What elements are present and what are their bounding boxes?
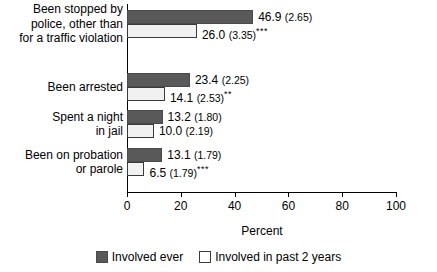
category-label-line: Been stopped by [0,2,123,17]
category-label: Been arrested [0,80,127,95]
bar-value-label: 13.2 (1.80) [168,110,222,125]
white-swatch [199,251,211,263]
x-tick-mark [127,192,128,197]
x-tick-label: 20 [161,199,201,213]
bar-value-label: 14.1 (2.53)** [170,87,232,106]
category-label: Been on probationor parole [0,148,127,177]
bar [127,124,154,138]
bar-value-label: 46.9 (2.65) [258,10,312,25]
x-tick-label: 80 [322,199,362,213]
bar-value-label: 10.0 (2.19) [159,124,213,139]
plot-area: 46.9 (2.65)26.0 (3.35)***23.4 (2.25)14.1… [127,4,396,192]
category-label-line: Been arrested [0,80,123,95]
category-label-line: for a traffic violation [0,31,123,46]
bar-value-label: 13.1 (1.79) [167,148,221,163]
x-tick-label: 100 [376,199,416,213]
bar [127,110,163,124]
x-tick-label: 40 [215,199,255,213]
x-axis-title: Percent [127,224,397,238]
legend-label: Involved ever [112,250,183,264]
x-tick-mark [235,192,236,197]
category-label-line: police, other than [0,17,123,32]
x-tick-mark [181,192,182,197]
legend-item: Involved in past 2 years [199,250,341,264]
bar [127,10,253,24]
bar [127,148,162,162]
bar [127,87,165,101]
x-axis-line [127,192,397,193]
bar [127,73,190,87]
category-label-line: Spent a night [0,110,123,125]
bar-chart: 020406080100 Percent Been stopped bypoli… [0,0,437,272]
x-tick-mark [342,192,343,197]
bar [127,162,144,176]
chart-legend: Involved everInvolved in past 2 years [0,250,437,264]
category-label-line: Been on probation [0,148,123,163]
x-tick-mark [396,192,397,197]
legend-item: Involved ever [96,250,183,264]
bar-value-label: 23.4 (2.25) [195,73,249,88]
category-label-line: or parole [0,162,123,177]
x-tick-label: 60 [268,199,308,213]
x-tick-mark [288,192,289,197]
category-label-line: in jail [0,124,123,139]
category-label: Been stopped bypolice, other thanfor a t… [0,2,127,46]
bar-value-label: 6.5 (1.79)*** [149,162,208,181]
bar [127,24,197,38]
dark-gray-swatch [96,251,108,263]
category-label: Spent a nightin jail [0,110,127,139]
x-tick-label: 0 [107,199,147,213]
legend-label: Involved in past 2 years [215,250,341,264]
bar-value-label: 26.0 (3.35)*** [202,24,268,43]
